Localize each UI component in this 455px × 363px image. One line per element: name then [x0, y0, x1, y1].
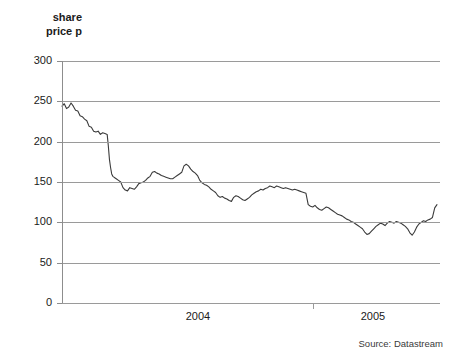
y-tick-label-200: 200: [8, 135, 52, 147]
y-tick-label-50: 50: [8, 256, 52, 268]
share-price-chart: share price p 300250200150100500 2004 20…: [0, 0, 455, 363]
source-note: Source: Datastream: [359, 338, 443, 349]
gridline-0: [62, 303, 440, 304]
gridline-150: [62, 182, 440, 183]
y-axis-line: [62, 61, 63, 303]
x-tick-label-2004: 2004: [168, 310, 228, 322]
gridline-200: [62, 142, 440, 143]
x-tick-label-2005: 2005: [343, 310, 403, 322]
y-tick-mark-50: [57, 263, 62, 264]
y-tick-mark-300: [57, 61, 62, 62]
y-tick-mark-200: [57, 142, 62, 143]
y-axis-title: share price p: [18, 11, 82, 38]
y-tick-label-150: 150: [8, 175, 52, 187]
y-tick-mark-100: [57, 222, 62, 223]
gridline-50: [62, 263, 440, 264]
y-tick-label-100: 100: [8, 215, 52, 227]
y-tick-label-250: 250: [8, 94, 52, 106]
y-tick-mark-150: [57, 182, 62, 183]
y-tick-mark-0: [57, 303, 62, 304]
gridline-250: [62, 101, 440, 102]
gridline-300: [62, 61, 440, 62]
x-axis-tick-mark: [313, 303, 314, 309]
y-tick-mark-250: [57, 101, 62, 102]
y-tick-label-0: 0: [8, 296, 52, 308]
gridline-100: [62, 222, 440, 223]
y-tick-label-300: 300: [8, 54, 52, 66]
share-price-line: [62, 103, 437, 235]
